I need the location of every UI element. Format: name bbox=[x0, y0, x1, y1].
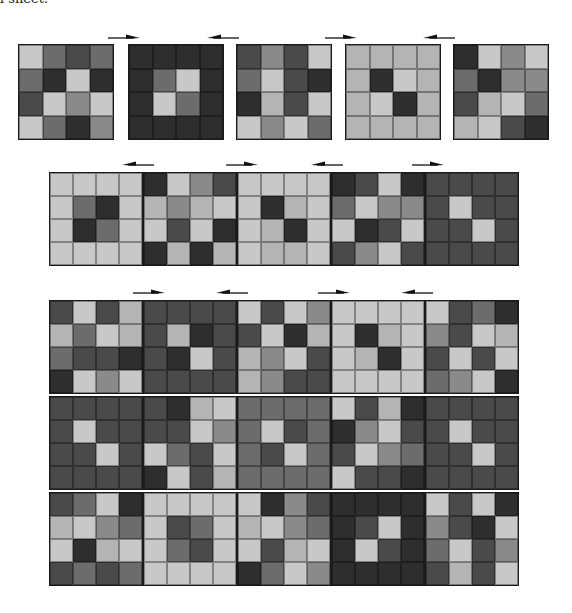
tile-cell bbox=[96, 466, 119, 489]
tile-cell bbox=[119, 516, 142, 539]
tile-cell bbox=[495, 370, 518, 393]
tile-cell bbox=[96, 397, 119, 420]
tile-cell bbox=[307, 242, 330, 265]
tile-cell bbox=[370, 69, 394, 93]
tile-cell bbox=[401, 219, 424, 242]
pattern-tile bbox=[453, 44, 549, 140]
tile-cell bbox=[176, 92, 200, 116]
tile-cell bbox=[50, 347, 73, 370]
tile-cell bbox=[190, 196, 213, 219]
tile-cell bbox=[472, 493, 495, 516]
tile-cell bbox=[401, 397, 424, 420]
tile-cell bbox=[144, 196, 167, 219]
tile-cell bbox=[50, 196, 73, 219]
tile-cell bbox=[417, 92, 441, 116]
tile-cell bbox=[213, 493, 236, 516]
tile-cell bbox=[332, 219, 355, 242]
tile-cell bbox=[167, 370, 190, 393]
pattern-tile bbox=[18, 44, 114, 140]
tile-cell bbox=[19, 45, 43, 69]
tile-cell bbox=[190, 301, 213, 324]
tile-cell bbox=[73, 397, 96, 420]
tile-cell bbox=[237, 116, 261, 140]
tile-cell bbox=[426, 562, 449, 585]
tile-cell bbox=[378, 562, 401, 585]
tile-cell bbox=[50, 493, 73, 516]
tile-cell bbox=[119, 219, 142, 242]
tile-cell bbox=[449, 301, 472, 324]
tile-cell bbox=[426, 516, 449, 539]
tile-cell bbox=[378, 466, 401, 489]
tile-cell bbox=[90, 45, 114, 69]
tile-cell bbox=[426, 173, 449, 196]
tile-cell bbox=[284, 301, 307, 324]
arrow-right-icon bbox=[318, 288, 350, 296]
tile-cell bbox=[495, 562, 518, 585]
arrow-right-icon bbox=[412, 160, 444, 168]
tile-cell bbox=[167, 301, 190, 324]
pattern-tile bbox=[425, 396, 519, 490]
tile-cell bbox=[495, 420, 518, 443]
tile-cell bbox=[190, 420, 213, 443]
tile-cell bbox=[213, 539, 236, 562]
tile-cell bbox=[237, 69, 261, 93]
tile-cell bbox=[284, 242, 307, 265]
tile-cell bbox=[401, 539, 424, 562]
tile-cell bbox=[238, 562, 261, 585]
tile-cell bbox=[308, 116, 332, 140]
tile-cell bbox=[449, 443, 472, 466]
tile-cell bbox=[525, 69, 549, 93]
tile-cell bbox=[417, 45, 441, 69]
tile-cell bbox=[426, 397, 449, 420]
tile-cell bbox=[96, 173, 119, 196]
tile-cell bbox=[454, 45, 478, 69]
tile-cell bbox=[73, 466, 96, 489]
tile-cell bbox=[284, 370, 307, 393]
tile-cell bbox=[153, 92, 177, 116]
tile-cell bbox=[370, 45, 394, 69]
tile-cell bbox=[332, 301, 355, 324]
tile-cell bbox=[417, 116, 441, 140]
tile-cell bbox=[73, 539, 96, 562]
tile-cell bbox=[332, 539, 355, 562]
pattern-tile bbox=[425, 492, 519, 586]
tile-cell bbox=[307, 324, 330, 347]
tile-cell bbox=[426, 242, 449, 265]
tile-cell bbox=[401, 562, 424, 585]
tile-cell bbox=[119, 347, 142, 370]
tile-cell bbox=[96, 562, 119, 585]
tile-cell bbox=[426, 466, 449, 489]
tile-cell bbox=[393, 116, 417, 140]
tile-cell bbox=[332, 242, 355, 265]
tile-cell bbox=[213, 466, 236, 489]
tile-cell bbox=[73, 562, 96, 585]
tile-cell bbox=[426, 493, 449, 516]
tile-cell bbox=[501, 116, 525, 140]
tile-cell bbox=[96, 347, 119, 370]
tile-cell bbox=[96, 539, 119, 562]
tile-cell bbox=[167, 443, 190, 466]
tile-cell bbox=[213, 443, 236, 466]
tile-cell bbox=[284, 466, 307, 489]
tile-cell bbox=[190, 347, 213, 370]
tile-cell bbox=[284, 397, 307, 420]
tile-cell bbox=[478, 69, 502, 93]
tile-cell bbox=[213, 324, 236, 347]
tile-cell bbox=[495, 242, 518, 265]
tile-cell bbox=[332, 443, 355, 466]
tile-cell bbox=[426, 370, 449, 393]
pattern-tile bbox=[237, 396, 331, 490]
tile-cell bbox=[261, 196, 284, 219]
tile-cell bbox=[332, 562, 355, 585]
tile-cell bbox=[73, 347, 96, 370]
tile-cell bbox=[43, 116, 67, 140]
tile-cell bbox=[238, 493, 261, 516]
tile-cell bbox=[355, 420, 378, 443]
tile-cell bbox=[119, 301, 142, 324]
tile-cell bbox=[190, 443, 213, 466]
tile-cell bbox=[50, 219, 73, 242]
tile-cell bbox=[307, 493, 330, 516]
tile-cell bbox=[332, 324, 355, 347]
tile-cell bbox=[449, 219, 472, 242]
tile-cell bbox=[393, 45, 417, 69]
